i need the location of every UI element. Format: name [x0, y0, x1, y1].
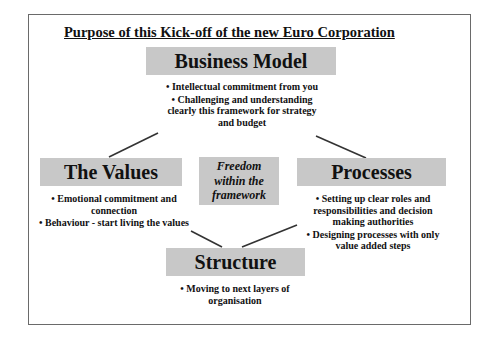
processes-box: Processes — [297, 158, 446, 186]
processes-bullet-2: • Designing processes with only value ad… — [300, 229, 446, 252]
business-model-box: Business Model — [146, 47, 336, 75]
processes-bullet-1: • Setting up clear roles and responsibil… — [300, 193, 446, 228]
processes-bullets: • Setting up clear roles and responsibil… — [300, 193, 446, 253]
connector-values-to-structure — [191, 231, 222, 247]
structure-bullet-1: • Moving to next layers of organisation — [170, 283, 300, 306]
business-model-bullet-1: • Intellectual commitment from you — [160, 81, 324, 93]
freedom-label: Freedom within the framework — [206, 159, 272, 203]
business-model-bullets: • Intellectual commitment from you • Cha… — [160, 81, 324, 129]
structure-label: Structure — [195, 251, 277, 274]
freedom-box: Freedom within the framework — [199, 157, 279, 205]
business-model-label: Business Model — [175, 50, 308, 73]
values-box: The Values — [40, 158, 182, 186]
values-bullet-1: • Emotional commitment and connection — [34, 193, 194, 216]
values-bullet-2: • Behaviour - start living the values — [34, 217, 194, 229]
structure-box: Structure — [166, 248, 305, 276]
values-label: The Values — [64, 161, 158, 184]
processes-label: Processes — [331, 161, 412, 184]
structure-bullets: • Moving to next layers of organisation — [170, 283, 300, 307]
connector-business-to-values — [109, 133, 158, 157]
connector-business-to-processes — [316, 136, 366, 158]
values-bullets: • Emotional commitment and connection • … — [34, 193, 194, 230]
connector-processes-to-structure — [242, 225, 297, 247]
business-model-bullet-2: • Challenging and understanding clearly … — [160, 94, 324, 129]
